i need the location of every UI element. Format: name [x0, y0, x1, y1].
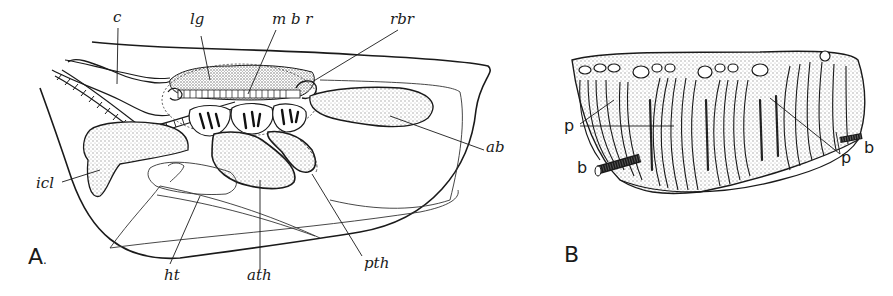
label-ab: ab: [486, 140, 505, 155]
panel-a-drawing: [0, 0, 893, 296]
label-p-left: p: [564, 118, 574, 134]
label-b-right: b: [864, 140, 874, 156]
label-rbr: rbr: [390, 12, 414, 27]
label-icl: icl: [36, 176, 54, 191]
panel-a-suffix: .: [43, 253, 47, 267]
figure: c lg m b r rbr ab icl ht ath pth A. p p …: [0, 0, 893, 296]
label-ht: ht: [164, 268, 180, 283]
label-b-left: b: [577, 160, 587, 176]
label-mbr: m b r: [272, 12, 313, 27]
label-lg: lg: [190, 12, 204, 27]
panel-b-drawing: [572, 51, 865, 194]
panel-label-a: A.: [28, 246, 47, 268]
label-c: c: [113, 10, 121, 25]
label-ath: ath: [247, 268, 272, 283]
panel-label-b: B: [564, 244, 579, 266]
label-pth: pth: [364, 256, 389, 271]
label-p-right: p: [841, 150, 851, 166]
panel-a-letter: A: [28, 244, 43, 269]
